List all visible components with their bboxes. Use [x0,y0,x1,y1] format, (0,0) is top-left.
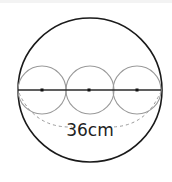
center-dot-left [41,89,44,92]
circle-diagram: 36cm [0,0,172,182]
measurement-label: 36cm [66,120,114,140]
center-dot-right [136,89,139,92]
center-dot-middle [88,89,91,92]
